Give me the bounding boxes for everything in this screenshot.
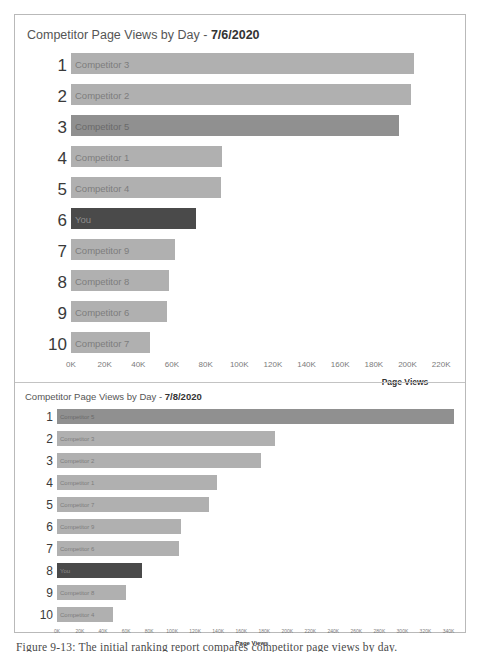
bar[interactable]: Competitor 7 bbox=[71, 332, 150, 353]
x-axis-tick-label: 120K bbox=[264, 360, 283, 369]
bar-rank-label: 9 bbox=[41, 305, 67, 322]
chart-2-bars: 1Competitor 52Competitor 33Competitor 24… bbox=[15, 406, 465, 626]
x-axis-tick-label: 180K bbox=[258, 628, 270, 634]
bar-category-label: You bbox=[60, 568, 70, 574]
x-axis-tick-label: 120K bbox=[189, 628, 201, 634]
bar-category-label: Competitor 5 bbox=[75, 120, 129, 131]
bar-category-label: Competitor 1 bbox=[60, 480, 94, 486]
bar-row: 3Competitor 2 bbox=[15, 450, 465, 472]
bar[interactable]: Competitor 6 bbox=[57, 541, 179, 556]
x-axis-tick-label: 300K bbox=[397, 628, 409, 634]
bar[interactable]: Competitor 9 bbox=[57, 519, 181, 534]
x-axis-tick-label: 160K bbox=[235, 628, 247, 634]
bar-row: 1Competitor 3 bbox=[15, 49, 465, 80]
x-axis-tick-label: 260K bbox=[351, 628, 363, 634]
x-axis-tick-label: 280K bbox=[374, 628, 386, 634]
x-axis-tick-label: 60K bbox=[122, 628, 131, 634]
bar-category-label: Competitor 7 bbox=[75, 337, 129, 348]
x-axis-tick-label: 200K bbox=[281, 628, 293, 634]
chart-1-title: Competitor Page Views by Day - 7/6/2020 bbox=[27, 28, 260, 42]
bar-category-label: Competitor 3 bbox=[60, 436, 94, 442]
bar-category-label: You bbox=[75, 213, 91, 224]
bar-rank-label: 8 bbox=[41, 274, 67, 291]
bar-row: 9Competitor 8 bbox=[15, 582, 465, 604]
x-axis-tick-label: 140K bbox=[212, 628, 224, 634]
chart-competitor-page-views-7-6-2020: Competitor Page Views by Day - 7/6/2020 … bbox=[15, 15, 465, 382]
bar-category-label: Competitor 3 bbox=[75, 58, 129, 69]
bar-category-label: Competitor 2 bbox=[60, 458, 94, 464]
x-axis-tick-label: 160K bbox=[331, 360, 350, 369]
bar-rank-label: 10 bbox=[41, 336, 67, 353]
bar[interactable]: Competitor 2 bbox=[57, 453, 261, 468]
x-axis-tick-label: 60K bbox=[165, 360, 179, 369]
chart-2-title-date: 7/8/2020 bbox=[165, 391, 202, 402]
x-axis-tick-label: 40K bbox=[99, 628, 108, 634]
bar-row: 4Competitor 1 bbox=[15, 472, 465, 494]
bar-rank-label: 5 bbox=[41, 181, 67, 198]
bar-category-label: Competitor 2 bbox=[75, 89, 129, 100]
bar-category-label: Competitor 6 bbox=[60, 546, 94, 552]
bar-row: 5Competitor 4 bbox=[15, 173, 465, 204]
bar-rank-label: 8 bbox=[29, 565, 53, 577]
x-axis-tick-label: 40K bbox=[131, 360, 145, 369]
x-axis-tick-label: 220K bbox=[432, 360, 451, 369]
chart-1-title-date: 7/6/2020 bbox=[211, 28, 260, 42]
bar[interactable]: Competitor 7 bbox=[57, 497, 209, 512]
bar[interactable]: Competitor 3 bbox=[71, 53, 414, 74]
bar[interactable]: Competitor 8 bbox=[57, 585, 126, 600]
bar[interactable]: Competitor 5 bbox=[57, 409, 454, 424]
bar-rank-label: 2 bbox=[41, 88, 67, 105]
bar-rank-label: 5 bbox=[29, 499, 53, 511]
bar[interactable]: Competitor 4 bbox=[71, 177, 221, 198]
bar-row: 3Competitor 5 bbox=[15, 111, 465, 142]
x-axis-tick-label: 180K bbox=[365, 360, 384, 369]
bar-row: 6You bbox=[15, 204, 465, 235]
bar-rank-label: 6 bbox=[41, 212, 67, 229]
bar-rank-label: 9 bbox=[29, 587, 53, 599]
bar[interactable]: Competitor 5 bbox=[71, 115, 399, 136]
bar-row: 6Competitor 9 bbox=[15, 516, 465, 538]
bar-rank-label: 2 bbox=[29, 433, 53, 445]
bar-rank-label: 4 bbox=[29, 477, 53, 489]
x-axis-tick-label: 0K bbox=[66, 360, 76, 369]
bar[interactable]: Competitor 3 bbox=[57, 431, 275, 446]
bar-category-label: Competitor 7 bbox=[60, 502, 94, 508]
bar-category-label: Competitor 4 bbox=[75, 182, 129, 193]
bar-category-label: Competitor 5 bbox=[60, 414, 94, 420]
chart-1-bars: 1Competitor 32Competitor 23Competitor 54… bbox=[15, 49, 465, 359]
bar[interactable]: Competitor 2 bbox=[71, 84, 411, 105]
x-axis-tick-label: 340K bbox=[443, 628, 455, 634]
bar[interactable]: Competitor 8 bbox=[71, 270, 169, 291]
bar[interactable]: Competitor 9 bbox=[71, 239, 175, 260]
x-axis-tick-label: 200K bbox=[398, 360, 417, 369]
figure-frame: Competitor Page Views by Day - 7/6/2020 … bbox=[14, 14, 466, 633]
x-axis-tick-label: 20K bbox=[76, 628, 85, 634]
bar[interactable]: Competitor 6 bbox=[71, 301, 167, 322]
bar[interactable]: Competitor 4 bbox=[57, 607, 113, 622]
x-axis-tick-label: 140K bbox=[297, 360, 316, 369]
x-axis-tick-label: 100K bbox=[166, 628, 178, 634]
bar-category-label: Competitor 9 bbox=[75, 244, 129, 255]
bar-row: 4Competitor 1 bbox=[15, 142, 465, 173]
chart-2-title: Competitor Page Views by Day - 7/8/2020 bbox=[25, 391, 202, 402]
bar-category-label: Competitor 4 bbox=[60, 612, 94, 618]
x-axis-tick-label: 80K bbox=[145, 628, 154, 634]
bar-row: 2Competitor 2 bbox=[15, 80, 465, 111]
bar[interactable]: You bbox=[71, 208, 196, 229]
bar[interactable]: Competitor 1 bbox=[57, 475, 217, 490]
bar-rank-label: 7 bbox=[41, 243, 67, 260]
bar-rank-label: 3 bbox=[29, 455, 53, 467]
bar-rank-label: 7 bbox=[29, 543, 53, 555]
bar-category-label: Competitor 8 bbox=[60, 590, 94, 596]
bar-row: 10Competitor 7 bbox=[15, 328, 465, 359]
bar-category-label: Competitor 1 bbox=[75, 151, 129, 162]
bar-row: 8Competitor 8 bbox=[15, 266, 465, 297]
bar[interactable]: Competitor 1 bbox=[71, 146, 222, 167]
x-axis-tick-label: 240K bbox=[327, 628, 339, 634]
bar-row: 2Competitor 3 bbox=[15, 428, 465, 450]
x-axis-tick-label: 80K bbox=[198, 360, 212, 369]
bar-rank-label: 3 bbox=[41, 119, 67, 136]
bar-category-label: Competitor 6 bbox=[75, 306, 129, 317]
bar[interactable]: You bbox=[57, 563, 142, 578]
figure-caption: Figure 9-13: The initial ranking report … bbox=[16, 641, 470, 652]
